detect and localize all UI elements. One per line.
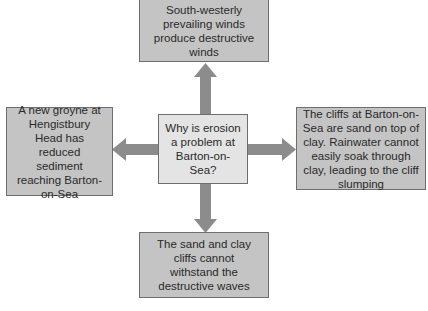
center-question: Why is erosion a problem at Barton-on-Se…	[158, 114, 248, 184]
node-top: South-westerly prevailing winds produce …	[139, 0, 269, 62]
node-bottom-text: The sand and clay cliffs cannot withstan…	[150, 237, 258, 293]
node-right: The cliffs at Barton-on-Sea are sand on …	[296, 107, 426, 190]
node-bottom: The sand and clay cliffs cannot withstan…	[139, 232, 269, 298]
center-question-text: Why is erosion a problem at Barton-on-Se…	[163, 121, 243, 177]
node-right-text: The cliffs at Barton-on-Sea are sand on …	[302, 107, 420, 191]
node-left-text: A new groyne at Hengistbury Head has red…	[15, 103, 104, 201]
node-left: A new groyne at Hengistbury Head has red…	[6, 107, 113, 196]
node-top-text: South-westerly prevailing winds produce …	[146, 3, 262, 59]
